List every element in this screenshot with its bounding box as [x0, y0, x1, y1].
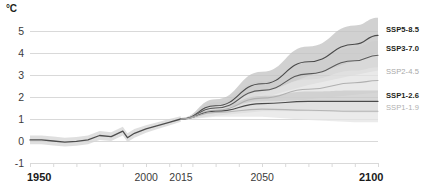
x-tick-label: 2050	[251, 172, 274, 183]
y-tick-label: 2	[2, 92, 24, 103]
climate-projection-chart: °C 543210-1 19502000201520502100 SSP5-8.…	[0, 0, 422, 194]
x-tick-label: 2015	[169, 172, 192, 183]
legend-label-ssp1-2.6: SSP1-2.6	[386, 92, 419, 100]
legend-label-ssp2-4.5: SSP2-4.5	[386, 68, 419, 76]
x-tick-label: 2000	[135, 172, 158, 183]
y-tick-label: 3	[2, 70, 24, 81]
chart-plot-area	[0, 0, 422, 194]
y-tick-label: 1	[2, 114, 24, 125]
y-tick-label: -1	[2, 158, 24, 169]
x-tick-label: 1950	[27, 172, 51, 183]
x-tick-label: 2100	[359, 172, 383, 183]
legend-label-ssp3-7.0: SSP3-7.0	[386, 45, 419, 53]
y-tick-label: 5	[2, 26, 24, 37]
uncertainty-bands	[30, 18, 378, 147]
y-tick-label: 0	[2, 136, 24, 147]
y-tick-label: 4	[2, 48, 24, 59]
legend-label-ssp1-1.9: SSP1-1.9	[386, 104, 419, 112]
legend-label-ssp5-8.5: SSP5-8.5	[386, 26, 419, 34]
